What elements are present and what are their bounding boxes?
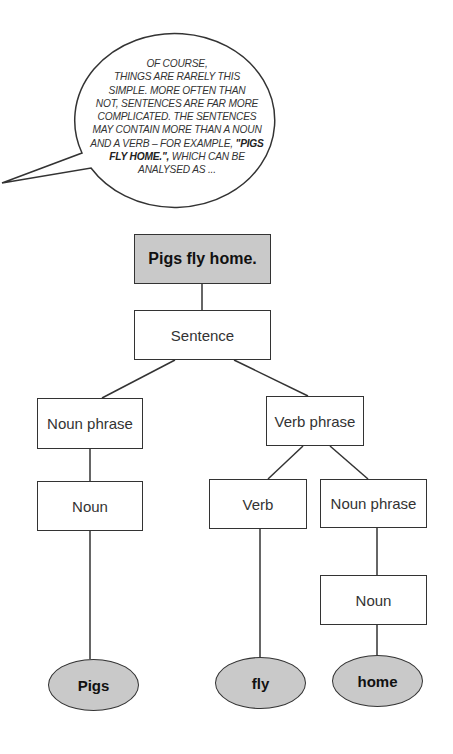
- edge-vp-np2: [330, 446, 368, 479]
- bubble-line: MAY CONTAIN MORE THAN A NOUN: [82, 123, 272, 136]
- bubble-line: OF COURSE,: [82, 57, 272, 70]
- bubble-line: COMPLICATED. THE SENTENCES: [82, 110, 272, 123]
- verb-phrase-node: Verb phrase: [266, 396, 364, 446]
- bubble-line: FLY HOME.", WHICH CAN BE: [82, 150, 272, 163]
- bubble-line: THINGS ARE RARELY THIS: [82, 70, 272, 83]
- edge-sentence-vp: [234, 360, 308, 396]
- leaf-fly: fly: [215, 657, 306, 709]
- sentence-node: Sentence: [134, 310, 271, 360]
- bubble-line: AND A VERB – FOR EXAMPLE, "PIGS: [82, 137, 272, 150]
- bubble-emphasis: "PIGS: [236, 138, 264, 149]
- edge-vp-verb: [268, 446, 303, 479]
- root-node: Pigs fly home.: [134, 234, 271, 284]
- bubble-line: NOT, SENTENCES ARE FAR MORE: [82, 97, 272, 110]
- noun-phrase-node: Noun phrase: [37, 398, 143, 449]
- bubble-line: SIMPLE. MORE OFTEN THAN: [82, 84, 272, 97]
- edge-sentence-np: [102, 360, 175, 398]
- bubble-line: ANALYSED AS ...: [82, 163, 272, 176]
- leaf-home: home: [332, 655, 423, 707]
- bubble-emphasis: FLY HOME.",: [109, 151, 169, 162]
- noun-node: Noun: [37, 481, 143, 531]
- speech-bubble-text: OF COURSE, THINGS ARE RARELY THIS SIMPLE…: [82, 57, 272, 177]
- verb-node: Verb: [209, 479, 307, 529]
- leaf-pigs: Pigs: [48, 659, 139, 711]
- noun-phrase-node-2: Noun phrase: [320, 479, 427, 528]
- noun-node-2: Noun: [320, 575, 427, 625]
